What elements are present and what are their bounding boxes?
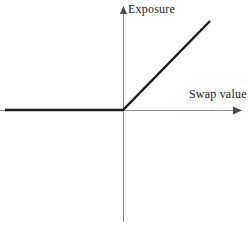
plot-area — [0, 0, 248, 227]
x-axis-label: Swap value — [189, 88, 247, 101]
y-axis-label: Exposure — [128, 3, 175, 16]
up-arrow-icon — [120, 6, 127, 14]
exposure-profile-line — [5, 21, 210, 110]
right-arrow-icon — [233, 107, 242, 115]
exposure-vs-swap-value-figure: Exposure Swap value — [0, 0, 248, 227]
